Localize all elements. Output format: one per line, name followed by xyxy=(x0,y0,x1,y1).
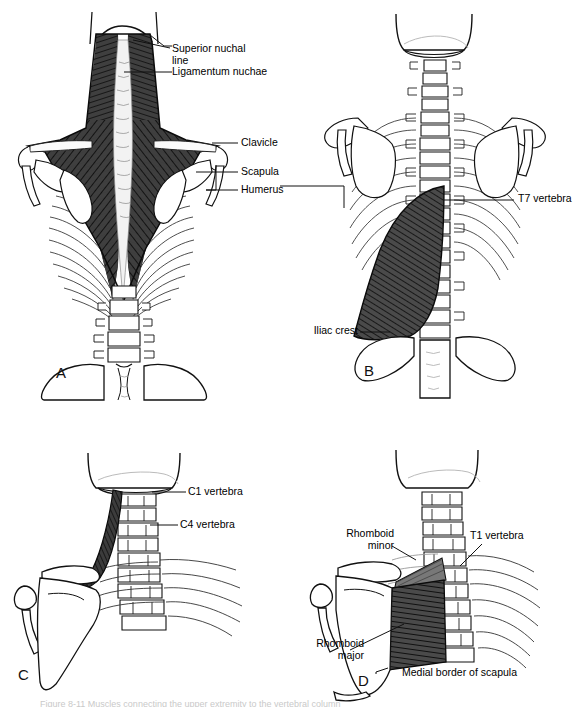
panel-letter-d: D xyxy=(358,672,369,689)
label-rhomboid-major: Rhomboidmajor xyxy=(292,638,364,661)
shoulder-girdle-d xyxy=(310,562,401,701)
panel-c-illustration xyxy=(0,420,292,707)
panel-b-latissimus-dorsi: T7 vertebra Iliac crest B xyxy=(292,0,584,400)
label-rhomboid-minor-l1: Rhomboid xyxy=(346,527,394,539)
panel-c-levator-scapulae: C1 vertebra C4 vertebra C xyxy=(0,420,292,707)
label-ligamentum-nuchae: Ligamentum nuchae xyxy=(172,66,267,78)
label-t1-vertebra: T1 vertebra xyxy=(470,530,524,542)
panel-letter-b: B xyxy=(364,362,374,379)
label-rhomboid-minor-l2: minor xyxy=(368,539,394,551)
skull-base-c xyxy=(88,453,180,496)
label-superior-nuchal-line: Superior nuchalline xyxy=(172,43,258,66)
panel-letter-a: A xyxy=(56,364,66,381)
figure-caption: Figure 8-11 Muscles connecting the upper… xyxy=(40,699,560,707)
pelvis-a xyxy=(42,365,207,400)
label-superior-nuchal-line-l1: Superior nuchal xyxy=(172,42,246,54)
skull-base-b xyxy=(396,14,472,58)
panel-d-illustration xyxy=(292,420,584,707)
label-iliac-crest: Iliac crest xyxy=(292,325,358,337)
label-humerus: Humerus xyxy=(241,184,284,196)
pelvis-b xyxy=(355,337,515,398)
label-rhomboid-major-l1: Rhomboid xyxy=(316,637,364,649)
label-c1-vertebra: C1 vertebra xyxy=(188,486,243,498)
label-medial-border-of-scapula: Medial border of scapula xyxy=(402,667,517,679)
skull-base-d xyxy=(396,450,480,488)
anatomy-figure: Superior nuchalline Ligamentum nuchae Cl… xyxy=(0,0,584,707)
label-t7-vertebra: T7 vertebra xyxy=(518,193,572,205)
label-scapula: Scapula xyxy=(241,166,279,178)
label-clavicle: Clavicle xyxy=(241,137,278,149)
label-c4-vertebra: C4 vertebra xyxy=(180,519,235,531)
panel-d-rhomboids: Rhomboidminor Rhomboidmajor T1 vertebra … xyxy=(292,420,584,707)
panel-a-trapezius: Superior nuchalline Ligamentum nuchae Cl… xyxy=(0,0,292,400)
label-rhomboid-major-l2: major xyxy=(338,649,364,661)
panel-letter-c: C xyxy=(18,666,29,683)
label-rhomboid-minor: Rhomboidminor xyxy=(312,528,394,551)
